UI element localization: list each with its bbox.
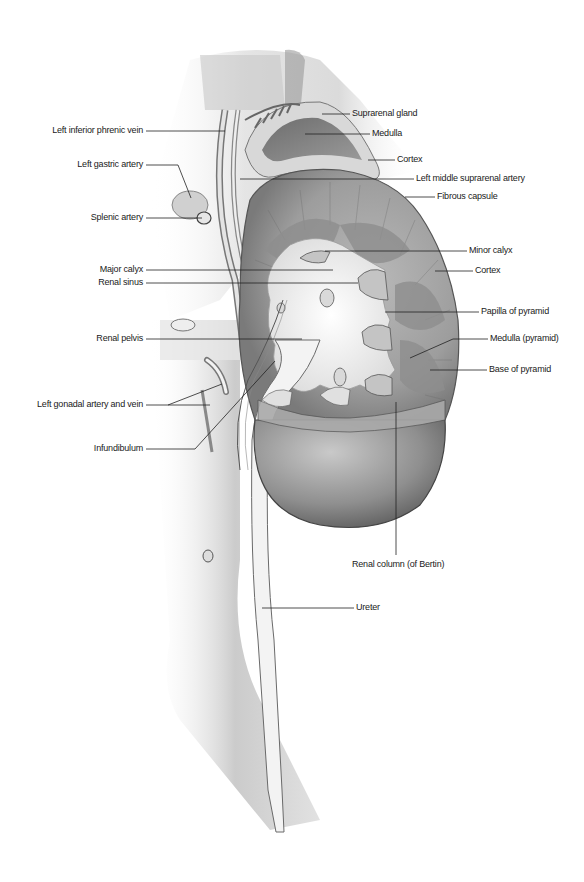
label-left-gonadal-artery-and-vein: Left gonadal artery and vein	[37, 399, 143, 410]
label-papilla-of-pyramid: Papilla of pyramid	[481, 306, 549, 317]
label-minor-calyx: Minor calyx	[469, 245, 512, 256]
label-suprarenal-medulla: Medulla	[372, 128, 402, 139]
label-kidney-cortex: Cortex	[475, 265, 500, 276]
label-suprarenal-gland: Suprarenal gland	[352, 108, 417, 119]
leader-medulla-pyramid	[410, 339, 488, 358]
label-renal-sinus: Renal sinus	[98, 277, 143, 288]
label-renal-pelvis: Renal pelvis	[96, 333, 143, 344]
label-left-gastric-artery: Left gastric artery	[77, 159, 143, 170]
label-ureter: Ureter	[356, 602, 380, 613]
label-splenic-artery: Splenic artery	[91, 212, 143, 223]
leader-gonadal-artery	[146, 384, 222, 405]
leader-left-gastric-artery	[146, 165, 191, 198]
label-suprarenal-cortex: Cortex	[397, 154, 422, 165]
kidney-anatomy-figure: Left inferior phrenic vein Left gastric …	[0, 0, 584, 882]
label-major-calyx: Major calyx	[100, 264, 143, 275]
label-medulla-pyramid: Medulla (pyramid)	[490, 333, 559, 344]
label-renal-column-of-bertin: Renal column (of Bertin)	[352, 559, 444, 570]
label-base-of-pyramid: Base of pyramid	[489, 364, 551, 375]
label-left-inferior-phrenic-vein: Left inferior phrenic vein	[52, 125, 143, 136]
label-infundibulum: Infundibulum	[94, 443, 143, 454]
label-fibrous-capsule: Fibrous capsule	[437, 191, 498, 202]
label-left-middle-suprarenal-artery: Left middle suprarenal artery	[416, 173, 525, 184]
